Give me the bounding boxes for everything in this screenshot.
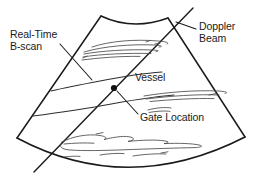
texture-stroke-lower-detail-1: [64, 143, 94, 144]
real-time-b-scan-label-line2: B-scan: [10, 41, 57, 53]
texture-stroke-upper-tick-2: [155, 43, 160, 44]
texture-stroke-lower-tick-1: [96, 133, 103, 134]
tissue-texture-group: [33, 40, 227, 157]
leader-line-doppler-beam: [176, 22, 196, 29]
texture-stroke-right-3: [150, 98, 214, 101]
leader-lines-group: [60, 22, 196, 114]
doppler-beam-label: Doppler Beam: [199, 21, 235, 44]
doppler-beam-label-line1: Doppler: [199, 21, 235, 33]
texture-stroke-lower-detail-4: [64, 156, 80, 157]
gate-location-label: Gate Location: [140, 112, 204, 124]
texture-stroke-right-small-1: [148, 108, 171, 110]
sector-top-arc: [101, 16, 168, 24]
vessel-label: Vessel: [135, 72, 165, 84]
gate-location-marker-dot: [111, 85, 117, 91]
real-time-b-scan-label: Real-Time B-scan: [10, 29, 57, 52]
ultrasound-sector-diagram: Real-Time B-scan Doppler Beam Vessel Gat…: [0, 0, 258, 190]
texture-stroke-lower-tick-2: [161, 152, 168, 153]
doppler-beam-label-line2: Beam: [199, 33, 235, 45]
leader-line-real-time-bscan: [60, 44, 92, 80]
real-time-b-scan-label-line1: Real-Time: [10, 29, 57, 41]
texture-stroke-lower-detail-3: [133, 154, 166, 156]
texture-stroke-lower-detail-2: [100, 153, 124, 155]
texture-stroke-upper-5: [82, 56, 140, 60]
